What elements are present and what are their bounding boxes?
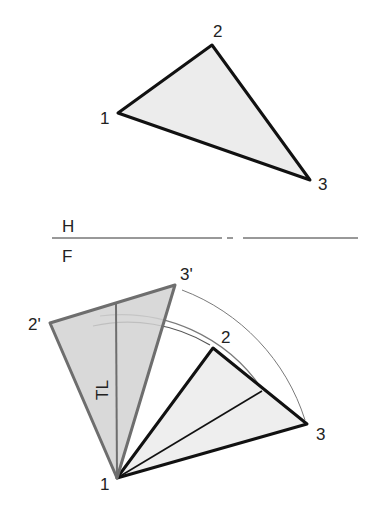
fold-label-f: F	[62, 247, 72, 266]
front-label-1: 1	[100, 475, 109, 494]
fold-label-h: H	[62, 217, 74, 236]
top-label-3: 3	[318, 175, 327, 194]
front-label-2-rotated: 2'	[28, 315, 41, 334]
front-label-3-rotated: 3'	[180, 265, 193, 284]
top-label-1: 1	[100, 109, 109, 128]
rotation-diagram: 1 2 3 H F 1 2 3 2' 3' TL	[0, 0, 372, 511]
front-label-2: 2	[221, 328, 230, 347]
true-length-line	[116, 304, 117, 478]
fold-line: H F	[52, 217, 358, 266]
top-label-2: 2	[213, 22, 222, 41]
true-length-label: TL	[93, 380, 112, 400]
front-view: 1 2 3 2' 3' TL	[28, 265, 325, 494]
top-triangle	[118, 45, 310, 180]
top-view: 1 2 3	[100, 22, 327, 194]
front-label-3: 3	[316, 425, 325, 444]
